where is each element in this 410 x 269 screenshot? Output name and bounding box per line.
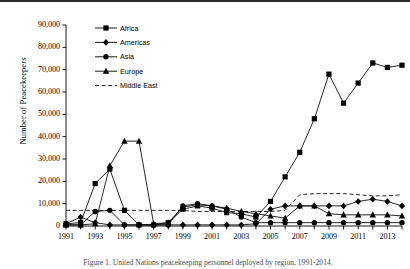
series-line bbox=[66, 194, 402, 212]
figure-container: Number of Peacekeepers 010,00020,00030,0… bbox=[0, 0, 410, 269]
data-point-marker bbox=[355, 211, 361, 217]
series-line bbox=[66, 199, 402, 225]
y-axis-tick-label: 0 bbox=[14, 221, 60, 230]
data-point-marker bbox=[370, 196, 376, 203]
series-asia bbox=[63, 201, 404, 228]
data-point-marker bbox=[355, 220, 360, 225]
y-axis-tick-label: 30,000 bbox=[14, 154, 60, 163]
data-point-marker bbox=[370, 211, 376, 217]
data-point-marker bbox=[93, 209, 98, 214]
data-point-marker bbox=[384, 198, 390, 205]
data-point-marker bbox=[341, 220, 346, 225]
data-point-marker bbox=[78, 214, 84, 221]
series-americas bbox=[63, 196, 405, 228]
data-point-marker bbox=[297, 150, 302, 155]
x-axis-tick-label: 2013 bbox=[367, 232, 407, 241]
data-point-marker bbox=[370, 220, 375, 225]
data-point-marker bbox=[180, 222, 186, 229]
series-line bbox=[66, 141, 402, 225]
y-axis-tick-label: 70,000 bbox=[14, 65, 60, 74]
data-point-marker bbox=[209, 222, 215, 229]
data-point-marker bbox=[312, 220, 317, 225]
legend-label-africa: Africa bbox=[120, 24, 138, 33]
data-point-marker bbox=[121, 138, 127, 144]
legend-label-asia: Asia bbox=[120, 52, 134, 61]
data-point-marker bbox=[136, 222, 141, 227]
data-point-marker bbox=[93, 181, 98, 186]
data-point-marker bbox=[399, 220, 404, 225]
chart-legend bbox=[95, 25, 117, 85]
line-chart-canvas bbox=[0, 0, 410, 269]
data-point-marker bbox=[326, 72, 331, 77]
data-point-marker bbox=[103, 25, 108, 30]
data-point-marker bbox=[282, 203, 288, 210]
data-point-marker bbox=[107, 162, 113, 168]
x-axis-ticks bbox=[66, 226, 402, 230]
legend-label-europe: Europe bbox=[120, 67, 143, 76]
y-axis-tick-label: 50,000 bbox=[14, 109, 60, 118]
data-point-marker bbox=[370, 60, 375, 65]
data-point-marker bbox=[385, 220, 390, 225]
data-point-marker bbox=[122, 222, 127, 227]
data-point-marker bbox=[356, 80, 361, 85]
series-middle-east bbox=[66, 194, 402, 212]
data-point-marker bbox=[238, 222, 244, 229]
data-point-marker bbox=[326, 220, 331, 225]
y-axis-tick-label: 60,000 bbox=[14, 87, 60, 96]
data-point-marker bbox=[268, 199, 273, 204]
data-point-marker bbox=[253, 220, 258, 225]
data-point-marker bbox=[103, 39, 109, 46]
y-axis-tick-label: 40,000 bbox=[14, 132, 60, 141]
data-point-marker bbox=[136, 138, 142, 144]
axis-lines bbox=[66, 25, 402, 226]
data-point-marker bbox=[341, 101, 346, 106]
data-point-marker bbox=[194, 222, 200, 229]
y-axis-tick-label: 80,000 bbox=[14, 42, 60, 51]
y-axis-tick-label: 20,000 bbox=[14, 176, 60, 185]
data-series-group bbox=[63, 60, 405, 228]
data-point-marker bbox=[297, 220, 302, 225]
legend-label-middle-east: Middle East bbox=[120, 81, 158, 90]
y-axis-ticks bbox=[63, 25, 67, 226]
series-line bbox=[66, 204, 402, 225]
data-point-marker bbox=[107, 222, 113, 229]
data-point-marker bbox=[399, 203, 405, 210]
y-axis-tick-label: 90,000 bbox=[14, 20, 60, 29]
data-point-marker bbox=[355, 198, 361, 205]
data-point-marker bbox=[268, 220, 273, 225]
y-axis-tick-label: 10,000 bbox=[14, 199, 60, 208]
data-point-marker bbox=[312, 116, 317, 121]
data-point-marker bbox=[385, 65, 390, 70]
figure-caption: Figure 1. United Nations peacekeeping pe… bbox=[18, 258, 398, 267]
series-africa bbox=[63, 60, 404, 227]
legend-label-americas: Americas bbox=[120, 38, 150, 47]
data-point-marker bbox=[283, 174, 288, 179]
data-point-marker bbox=[103, 54, 108, 59]
data-point-marker bbox=[224, 222, 230, 229]
data-point-marker bbox=[326, 203, 332, 210]
data-point-marker bbox=[340, 203, 346, 210]
data-point-marker bbox=[399, 63, 404, 68]
data-point-marker bbox=[384, 211, 390, 217]
data-point-marker bbox=[239, 214, 244, 219]
series-line bbox=[66, 63, 402, 225]
data-point-marker bbox=[326, 210, 332, 216]
